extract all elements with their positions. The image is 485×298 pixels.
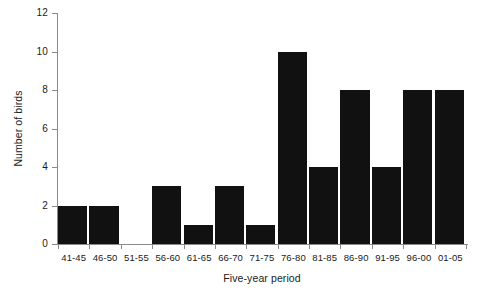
x-tick-label: 96-00 (403, 252, 434, 264)
bar (309, 167, 338, 244)
y-tick-mark (52, 129, 57, 130)
x-tick-mark (372, 245, 373, 249)
x-tick-label: 41-45 (58, 252, 89, 264)
x-tick-label: 71-75 (246, 252, 277, 264)
y-tick-label: 2 (8, 201, 48, 211)
x-tick-label: 61-65 (184, 252, 215, 264)
y-tick-label: 8 (8, 85, 48, 95)
x-tick-mark (403, 245, 404, 249)
bar-chart: Number of birds 024681012 41-4546-5051-5… (0, 0, 485, 298)
x-tick-mark (246, 245, 247, 249)
y-tick-mark (52, 90, 57, 91)
x-tick-label: 66-70 (215, 252, 246, 264)
y-tick-mark (52, 13, 57, 14)
x-axis-title: Five-year period (58, 272, 466, 284)
x-tick-mark (89, 245, 90, 249)
bar (184, 225, 213, 244)
bar (215, 186, 244, 244)
x-tick-mark (340, 245, 341, 249)
bar (89, 206, 118, 245)
x-tick-label: 51-55 (121, 252, 152, 264)
x-tick-label: 76-80 (278, 252, 309, 264)
bar (403, 90, 432, 244)
x-tick-label: 01-05 (435, 252, 466, 264)
bar (246, 225, 275, 244)
y-tick-mark (52, 206, 57, 207)
x-axis-line (57, 244, 468, 245)
y-tick-label: 12 (8, 8, 48, 18)
x-tick-label: 91-95 (372, 252, 403, 264)
x-tick-label: 56-60 (152, 252, 183, 264)
y-tick-mark (52, 167, 57, 168)
x-tick-mark (215, 245, 216, 249)
plot-area (58, 13, 466, 244)
x-tick-mark (309, 245, 310, 249)
bar (58, 206, 87, 245)
y-tick-label: 0 (8, 239, 48, 249)
y-tick-mark (52, 52, 57, 53)
bar (278, 52, 307, 245)
x-tick-label: 86-90 (340, 252, 371, 264)
x-tick-mark (121, 245, 122, 249)
x-tick-mark (466, 245, 467, 249)
y-tick-label: 4 (8, 162, 48, 172)
x-tick-label: 46-50 (89, 252, 120, 264)
y-tick-mark (52, 244, 57, 245)
x-tick-mark (152, 245, 153, 249)
bar (340, 90, 369, 244)
bar (372, 167, 401, 244)
y-tick-label: 6 (8, 124, 48, 134)
x-tick-mark (184, 245, 185, 249)
bar (435, 90, 464, 244)
x-tick-mark (278, 245, 279, 249)
y-tick-label: 10 (8, 47, 48, 57)
x-tick-mark (435, 245, 436, 249)
bar (152, 186, 181, 244)
x-tick-label: 81-85 (309, 252, 340, 264)
x-tick-mark (58, 245, 59, 249)
